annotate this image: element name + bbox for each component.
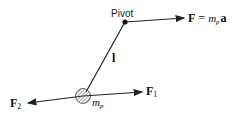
force-2-label: F2 [10, 96, 21, 111]
mass-label: mp [92, 96, 104, 110]
force-arrow-top [125, 18, 184, 22]
force-top-label: F = mpa [188, 11, 227, 26]
mass-bob [76, 89, 91, 104]
pivot-label: Pivot [111, 8, 133, 19]
force-1-label: F1 [146, 84, 157, 99]
pivot-point [122, 19, 127, 24]
rod-label: l [112, 51, 116, 65]
force-arrow-f2 [28, 96, 83, 103]
pendulum-force-diagram: Pivot l F = mpa F1 F2 mp [0, 0, 241, 114]
rod [86, 22, 125, 92]
